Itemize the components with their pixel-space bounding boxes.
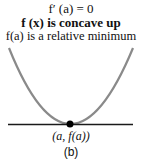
minimum-point: [67, 121, 74, 128]
point-label: (a, f(a)): [0, 129, 142, 144]
caption: (b): [0, 145, 142, 159]
concave-up-curve: [9, 48, 133, 124]
